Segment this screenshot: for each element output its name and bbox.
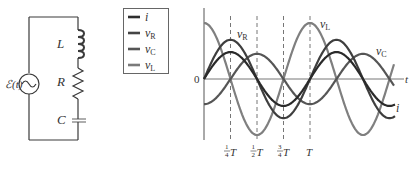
vR-label: vR <box>237 27 248 42</box>
svg-text:vC: vC <box>145 42 156 57</box>
capacitor-label: C <box>57 112 66 127</box>
i-label: i <box>396 101 399 115</box>
resistor-label: R <box>56 74 65 89</box>
legend-entries: i vR vC vL <box>123 8 169 74</box>
svg-text:4: 4 <box>278 151 282 159</box>
svg-text:2: 2 <box>252 151 256 159</box>
svg-text:4: 4 <box>225 151 229 159</box>
t-axis-label: t <box>405 73 409 85</box>
svg-text:3: 3 <box>278 143 282 151</box>
source-label: ℰ(t) <box>5 78 23 91</box>
resistor-icon <box>73 68 83 99</box>
capacitor-icon <box>72 119 86 122</box>
vL-label: vL <box>320 17 330 32</box>
svg-text:vL: vL <box>145 58 155 73</box>
tick-label-three-quarter-T: 3 4 T <box>277 143 290 159</box>
svg-text:vR: vR <box>145 26 156 41</box>
svg-text:1: 1 <box>252 143 256 151</box>
vC-label: vC <box>376 44 387 59</box>
inductor-icon <box>78 30 84 58</box>
svg-text:1: 1 <box>225 143 229 151</box>
svg-text:T: T <box>257 146 264 158</box>
tick-label-quarter-T: 1 4 T <box>224 143 237 159</box>
tick-label-T: T <box>306 146 313 158</box>
legend-label-i: i <box>145 10 148 24</box>
inductor-label: L <box>56 36 64 51</box>
origin-label: 0 <box>194 73 200 85</box>
svg-text:T: T <box>283 146 290 158</box>
rlc-circuit: ℰ(t) L R C <box>0 0 140 176</box>
tick-label-half-T: 1 2 T <box>251 143 264 159</box>
svg-text:T: T <box>230 146 237 158</box>
svg-text:T: T <box>306 146 313 158</box>
waveform-graph: 0 t vR vL vC i 1 4 T 1 2 T 3 4 T <box>190 0 412 176</box>
